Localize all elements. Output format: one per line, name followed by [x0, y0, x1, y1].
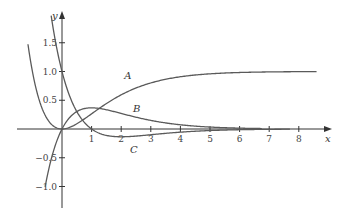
- curve-b: [45, 108, 262, 187]
- y-tick-label: 1.0: [43, 67, 58, 77]
- curve-label-b: B: [132, 103, 140, 114]
- y-axis-arrow-icon: [59, 11, 65, 19]
- chart: x y 12345678 1.51.00.5−0.5−1.0 ABC: [0, 0, 345, 219]
- x-tick-label: 5: [207, 134, 213, 144]
- y-tick-label: 0.5: [43, 95, 58, 105]
- x-tick-label: 4: [178, 134, 184, 144]
- x-tick-label: 8: [296, 134, 302, 144]
- x-axis-label: x: [325, 133, 331, 144]
- y-tick-label: −0.5: [35, 153, 57, 163]
- curve-label-a: A: [123, 70, 131, 81]
- curve-label-c: C: [130, 144, 138, 155]
- x-tick-label: 7: [266, 134, 272, 144]
- curves: ABC: [28, 16, 317, 187]
- curve-c: [51, 16, 290, 137]
- x-tick-label: 6: [237, 134, 243, 144]
- x-axis-arrow-icon: [324, 126, 332, 132]
- x-tick-label: 1: [89, 134, 95, 144]
- x-tick-label: 2: [118, 134, 124, 144]
- y-ticks: 1.51.00.5−0.5−1.0: [35, 38, 65, 192]
